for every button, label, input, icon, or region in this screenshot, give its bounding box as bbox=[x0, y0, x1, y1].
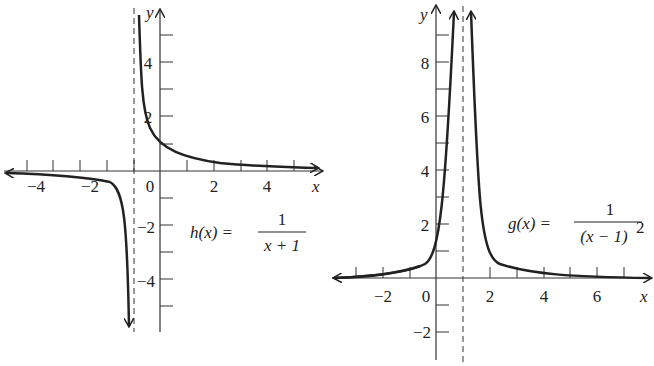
curve-h-right bbox=[139, 15, 318, 168]
y-tick-label: 8 bbox=[421, 54, 430, 73]
curve-h-left-lower bbox=[110, 182, 129, 326]
denominator: x + 1 bbox=[263, 236, 300, 255]
x-tick-label: 4 bbox=[263, 177, 272, 196]
x-tick-label: 6 bbox=[593, 287, 602, 306]
y-tick-label: 4 bbox=[144, 54, 153, 73]
y-tick-label: −4 bbox=[137, 272, 156, 291]
function-label: g(x) = bbox=[508, 214, 551, 233]
x-tick-label: 4 bbox=[540, 287, 549, 306]
x-tick-label: 0 bbox=[146, 177, 155, 196]
y-tick-label: 2 bbox=[421, 216, 430, 235]
x-tick-label: −2 bbox=[81, 177, 99, 196]
denominator: (x − 1) bbox=[580, 227, 628, 246]
y-tick-label: −2 bbox=[137, 218, 155, 237]
y-tick-label: −2 bbox=[413, 323, 431, 342]
y-ticks bbox=[436, 35, 449, 332]
numerator: 1 bbox=[606, 200, 615, 219]
numerator: 1 bbox=[278, 210, 287, 229]
chart-g: y x −2 0 2 4 6 8 6 4 2 −2 g(x) = 1 (x − … bbox=[332, 5, 651, 362]
function-label: h(x) = bbox=[190, 223, 233, 242]
y-label: y bbox=[144, 3, 154, 22]
y-tick-label: 6 bbox=[421, 108, 430, 127]
x-label: x bbox=[639, 287, 648, 306]
x-tick-label: −4 bbox=[27, 177, 46, 196]
y-tick-label: 2 bbox=[144, 108, 153, 127]
chart-canvas: y x −4 −2 0 2 4 4 2 −2 −4 h(x) = 1 x + 1 bbox=[0, 0, 654, 366]
x-tick-label: 2 bbox=[210, 177, 219, 196]
x-label: x bbox=[311, 177, 320, 196]
x-tick-label: −2 bbox=[374, 287, 392, 306]
x-tick-label: 0 bbox=[422, 287, 431, 306]
exponent: 2 bbox=[636, 218, 645, 237]
y-label: y bbox=[418, 5, 428, 24]
y-tick-label: 4 bbox=[421, 162, 430, 181]
chart-h: y x −4 −2 0 2 4 4 2 −2 −4 h(x) = 1 x + 1 bbox=[4, 3, 322, 332]
x-tick-label: 2 bbox=[486, 287, 495, 306]
